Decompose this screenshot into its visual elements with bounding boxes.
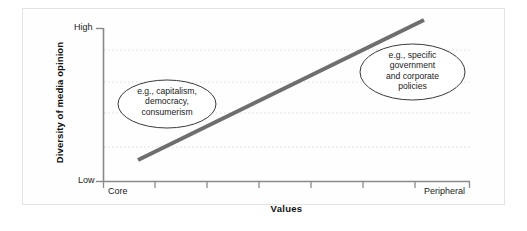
figure-container: High Low Core Peripheral Diversity of me…: [0, 0, 527, 231]
annotation-label-core-example: e.g., capitalism, democracy, consumerism: [118, 86, 216, 117]
chart-plot-area: [0, 0, 527, 231]
y-axis-title: Diversity of media opinion: [54, 23, 65, 183]
x-axis-title: Values: [103, 203, 470, 214]
y-axis-low-label: Low: [78, 175, 95, 185]
annotation-label-peripheral-example: e.g., specific government and corporate …: [360, 50, 465, 92]
x-axis-ticks: [104, 182, 470, 189]
x-axis-peripheral-label: Peripheral: [424, 186, 465, 196]
x-axis-core-label: Core: [108, 186, 128, 196]
y-axis-high-label: High: [74, 22, 93, 32]
